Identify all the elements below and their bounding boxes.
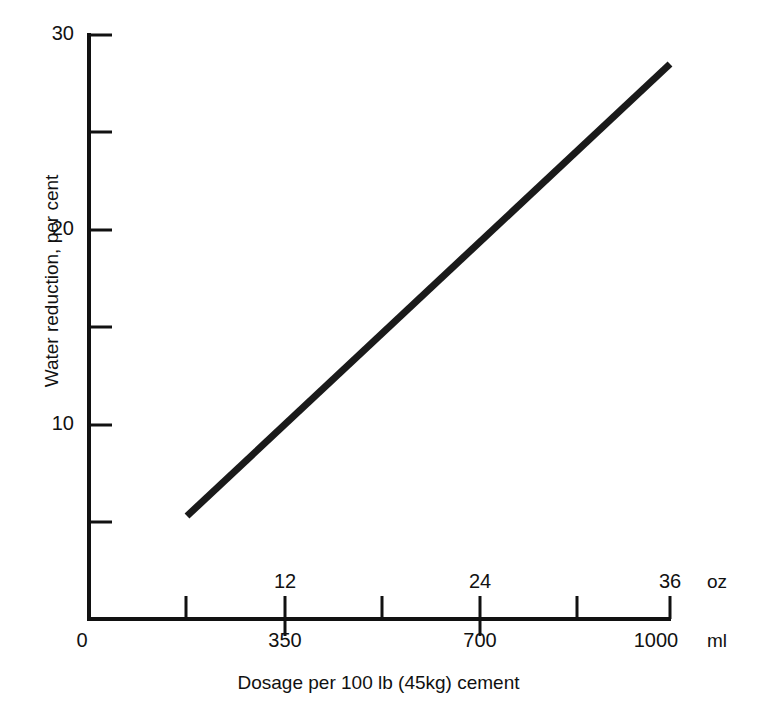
y-tick-label-10: 10 [20,412,74,435]
x-tick-label-ml-350: 350 [245,629,325,652]
x-tick-label-ml-700: 700 [440,629,520,652]
x-tick-label-oz-36: 36 [640,570,700,593]
y-axis-title-wrap: Water reduction, per cent [41,151,63,411]
x-tick-label-ml-0: 0 [62,629,102,652]
y-axis-title: Water reduction, per cent [41,175,62,388]
y-tick-label-30: 30 [20,22,74,45]
chart-canvas [0,0,757,711]
x-axis-unit-ml: ml [707,630,727,652]
data-line-series-0 [187,64,670,516]
x-tick-label-oz-12: 12 [255,570,315,593]
x-tick-label-ml-1000: 1000 [612,629,700,652]
x-axis-unit-oz: oz [707,571,727,593]
x-tick-label-oz-24: 24 [450,570,510,593]
x-axis-title: Dosage per 100 lb (45kg) cement [0,672,757,694]
chart-figure: 30 20 10 12 24 36 oz 0 350 700 1000 ml W… [0,0,757,711]
